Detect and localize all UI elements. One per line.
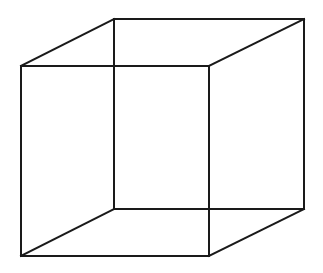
cube-edge-front-top-left-to-back-top-left — [21, 19, 114, 66]
cube-edge-front-bottom-left-to-back-bottom-left — [21, 209, 114, 256]
necker-cube-diagram — [0, 0, 323, 273]
cube-edge-front-bottom-right-to-back-bottom-right — [209, 209, 304, 256]
cube-wireframe — [0, 0, 323, 273]
cube-edge-front-top-right-to-back-top-right — [209, 19, 304, 66]
